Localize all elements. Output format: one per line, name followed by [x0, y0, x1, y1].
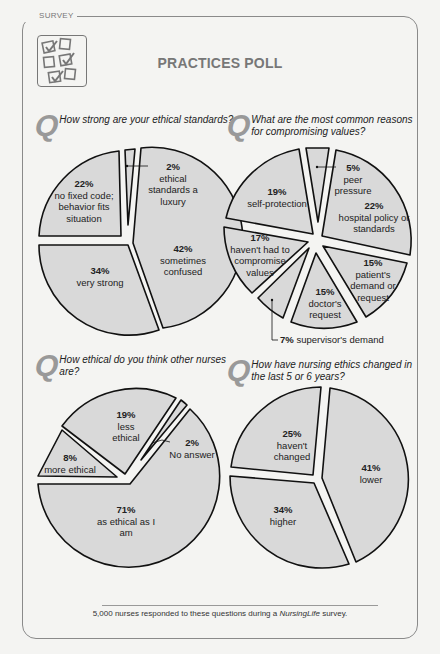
- footer-divider: [102, 605, 378, 606]
- label-higher: 34%higher: [258, 504, 308, 527]
- footer-note: 5,000 nurses responded to these question…: [0, 609, 440, 618]
- label-unchanged: 25%haven't changed: [262, 428, 322, 463]
- label-lower: 41%lower: [346, 462, 396, 485]
- pie-chart-4: [0, 0, 440, 654]
